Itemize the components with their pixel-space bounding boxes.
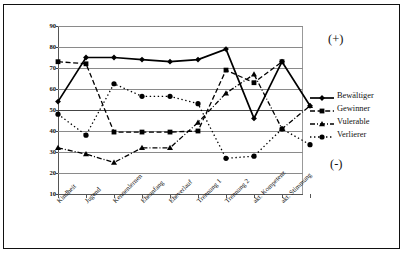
datapoint-gewinner-0 [56,59,61,64]
y-tick-label-10: 10 [30,191,56,198]
legend-item-verlierer[interactable]: Verlierer [309,128,397,141]
datapoint-verlierer-4 [167,94,172,99]
datapoint-verlierer-0 [55,112,60,117]
series-vulerable [55,71,313,164]
y-tick-label-50: 50 [30,107,56,114]
datapoint-gewinner-8 [280,59,285,64]
datapoint-verlierer-1 [83,133,88,138]
legend-label-vulerable: Vulerable [337,117,370,126]
series-line-verlierer [58,84,310,159]
legend-label-verlierer: Verlierer [337,130,366,139]
triangle-marker [309,116,335,128]
y-tick-label-60: 60 [30,86,56,93]
datapoint-bewältiger-6 [223,46,229,52]
negative-valence-annotation: (-) [330,157,343,172]
datapoint-bewältiger-3 [139,57,145,63]
datapoint-verlierer-5 [195,101,200,106]
circle-marker [309,129,335,141]
datapoint-verlierer-7 [251,154,256,159]
datapoint-vulerable-6 [223,90,229,95]
circle-marker-glyph [319,134,324,139]
datapoint-gewinner-7 [252,80,257,85]
y-tick-label-70: 70 [30,65,56,72]
legend-label-bewältiger: Bewältiger [337,91,374,100]
square-marker [309,103,335,115]
datapoint-gewinner-6 [224,68,229,73]
plot-area: KindheitJugendKennenlernenEheanfangEheve… [58,26,303,194]
y-tick-label-30: 30 [30,149,56,156]
datapoint-vulerable-7 [251,71,257,76]
legend-item-gewinner[interactable]: Gewinner [309,102,397,115]
series-layer [58,26,303,194]
series-verlierer [55,81,312,161]
datapoint-gewinner-1 [84,61,89,66]
datapoint-bewältiger-5 [195,57,201,63]
legend-label-gewinner: Gewinner [337,104,370,113]
y-tick-label-40: 40 [30,128,56,135]
diamond-marker [309,90,335,102]
datapoint-verlierer-2 [111,81,116,86]
y-tick-label-20: 20 [30,170,56,177]
datapoint-gewinner-4 [168,130,173,135]
legend-item-vulerable[interactable]: Vulerable [309,115,397,128]
y-tick-label-90: 90 [30,23,56,30]
datapoint-bewältiger-4 [167,59,173,65]
positive-valence-annotation: (+) [328,32,343,47]
legend-item-bewältiger[interactable]: Bewältiger [309,89,397,102]
chart-figure: 908070605040302010 KindheitJugendKennenl… [3,4,400,249]
datapoint-vulerable-1 [83,151,89,156]
datapoint-verlierer-9 [307,142,312,147]
datapoint-verlierer-3 [139,94,144,99]
chart-legend: BewältigerGewinnerVulerableVerlierer [309,89,397,141]
diamond-marker-glyph [319,95,325,101]
square-marker-glyph [320,108,325,113]
datapoint-bewältiger-7 [251,116,257,122]
datapoint-vulerable-2 [111,160,117,165]
datapoint-verlierer-8 [279,126,284,131]
series-line-bewältiger [58,49,310,118]
datapoint-verlierer-6 [223,156,228,161]
y-axis: 908070605040302010 [26,26,56,194]
datapoint-bewältiger-2 [111,55,117,61]
datapoint-gewinner-2 [112,130,117,135]
datapoint-gewinner-5 [196,129,201,134]
datapoint-vulerable-5 [195,120,201,125]
y-tick-label-80: 80 [30,44,56,51]
datapoint-gewinner-3 [140,130,145,135]
x-tick-mark-end [310,194,311,198]
